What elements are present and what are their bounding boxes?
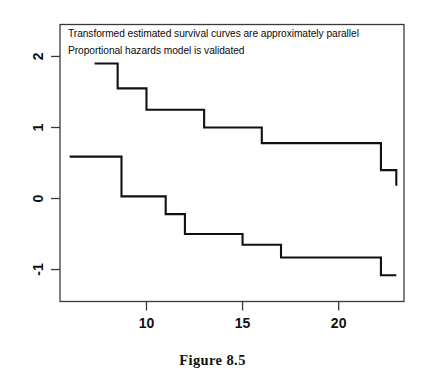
- figure-caption: Figure 8.5: [0, 352, 425, 369]
- annotation-line-1: Transformed estimated survival curves ar…: [68, 28, 359, 39]
- figure-container: -1012 101520 Transformed estimated survi…: [0, 0, 425, 384]
- y-tick-label: 1: [30, 123, 46, 131]
- survival-curve-plot: -1012 101520 Transformed estimated survi…: [0, 0, 425, 384]
- plot-background: [0, 0, 425, 384]
- x-tick-label: 15: [235, 315, 251, 331]
- y-tick-label: 0: [30, 194, 46, 202]
- y-tick-label: -1: [30, 263, 46, 276]
- x-tick-label: 10: [139, 315, 155, 331]
- x-tick-label: 20: [331, 315, 347, 331]
- annotation-line-2: Proportional hazards model is validated: [68, 45, 245, 56]
- y-tick-label: 2: [30, 52, 46, 60]
